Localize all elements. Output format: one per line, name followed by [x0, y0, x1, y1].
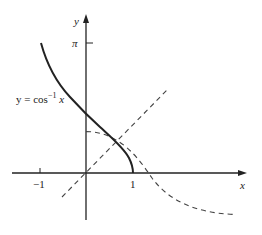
graph-canvas — [0, 0, 262, 235]
curve-label-prefix: y = cos — [16, 93, 48, 105]
x-axis-label: x — [240, 180, 245, 191]
y-axis-arrow-icon — [83, 14, 89, 23]
tick-label-pi: π — [72, 38, 78, 49]
curve-label-var: x — [59, 93, 64, 105]
curve-label-exp: −1 — [48, 91, 57, 100]
curve-label: y = cos−1 x — [16, 92, 64, 105]
x-axis-arrow-icon — [238, 170, 247, 176]
y-axis-label: y — [74, 16, 79, 27]
tick-label-one: 1 — [130, 179, 136, 190]
arccos-curve — [41, 43, 133, 173]
tick-label-neg-one: −1 — [33, 179, 45, 190]
